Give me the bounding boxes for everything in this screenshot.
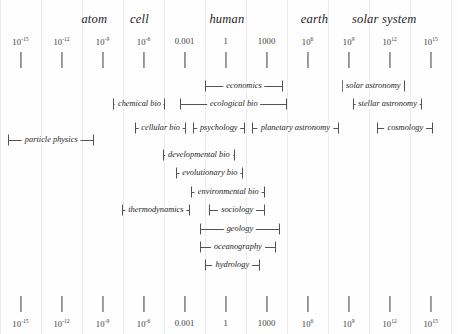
- range-cap-right: [264, 205, 265, 216]
- range-label: cosmology: [384, 124, 426, 132]
- tick-label-10^-15: 10-15: [12, 36, 28, 47]
- gridline: [328, 0, 329, 334]
- axis-tick: [61, 52, 62, 68]
- range-cap-left: [135, 123, 136, 134]
- tick-label-10^6: 106: [302, 36, 314, 47]
- tick-label-10^-6: 10-6: [137, 318, 150, 329]
- gridline: [123, 0, 124, 334]
- range-bar-environmental-bio: environmental bio: [191, 187, 265, 198]
- gridline: [246, 0, 247, 334]
- range-cap-right: [338, 123, 339, 134]
- range-bar-ecological-bio: ecological bio: [180, 99, 287, 110]
- range-cap-right: [432, 123, 433, 134]
- axis-tick: [266, 52, 267, 68]
- range-cap-left: [176, 168, 177, 179]
- tick-label-10^9: 109: [343, 318, 355, 329]
- range-cap-right: [264, 187, 265, 198]
- range-label: hydrology: [213, 261, 253, 269]
- tick-label-10^6: 106: [302, 318, 314, 329]
- gridline: [41, 0, 42, 334]
- range-cap-left: [252, 123, 253, 134]
- tick-label-10^12: 1012: [382, 318, 396, 329]
- axis-tick: [61, 296, 62, 312]
- range-cap-right: [421, 99, 422, 110]
- gridline: [451, 0, 452, 334]
- tick-label-1: 1: [223, 318, 227, 328]
- range-bar-cosmology: cosmology: [377, 123, 433, 134]
- axis-tick: [143, 52, 144, 68]
- scale-marker-solar-system: solar system: [352, 12, 417, 27]
- tick-label-10^-12: 10-12: [53, 318, 69, 329]
- range-cap-left: [163, 150, 164, 161]
- range-cap-left: [122, 205, 123, 216]
- tick-label-1000: 1000: [258, 318, 276, 328]
- axis-tick: [307, 296, 308, 312]
- range-cap-right: [282, 81, 283, 92]
- axis-tick: [102, 296, 103, 312]
- range-cap-left: [353, 99, 354, 110]
- axis-tick: [389, 52, 390, 68]
- axis-tick: [225, 296, 226, 312]
- gridline: [410, 0, 411, 334]
- range-cap-right: [279, 224, 280, 235]
- range-cap-right: [185, 123, 186, 134]
- tick-label-10^12: 1012: [382, 36, 396, 47]
- scale-marker-human: human: [209, 12, 244, 27]
- range-cap-right: [275, 242, 276, 253]
- tick-label-1: 1: [223, 36, 227, 46]
- range-cap-right: [259, 260, 260, 271]
- scale-marker-cell: cell: [130, 12, 149, 27]
- tick-label-10^15: 1015: [423, 318, 437, 329]
- axis-tick: [348, 52, 349, 68]
- range-label: oceanography: [211, 243, 265, 251]
- range-cap-right: [189, 205, 190, 216]
- range-label: developmental bio: [165, 151, 233, 159]
- range-bar-stellar-astronomy: stellar astronomy: [353, 99, 423, 110]
- tick-label-0.001: 0.001: [175, 36, 195, 46]
- tick-label-10^-9: 10-9: [96, 36, 109, 47]
- range-bar-evolutionary-bio: evolutionary bio: [176, 168, 243, 179]
- range-cap-left: [200, 242, 201, 253]
- range-cap-right: [164, 99, 165, 110]
- range-cap-left: [8, 135, 9, 146]
- axis-tick: [102, 52, 103, 68]
- range-label: economics: [223, 82, 264, 90]
- range-label: stellar astronomy: [355, 100, 420, 108]
- gridline: [287, 0, 288, 334]
- tick-label-1000: 1000: [258, 36, 276, 46]
- range-bar-chemical-bio: chemical bio: [113, 99, 165, 110]
- axis-tick: [348, 296, 349, 312]
- range-label: environmental bio: [195, 188, 262, 196]
- axis-tick: [430, 296, 431, 312]
- axis-tick: [143, 296, 144, 312]
- axis-tick: [266, 296, 267, 312]
- scale-marker-atom: atom: [81, 12, 107, 27]
- range-bar-economics: economics: [205, 81, 283, 92]
- range-cap-left: [193, 123, 194, 134]
- tick-label-10^-15: 10-15: [12, 318, 28, 329]
- range-label: psychology: [197, 124, 241, 132]
- tick-label-10^-12: 10-12: [53, 36, 69, 47]
- range-cap-right: [242, 168, 243, 179]
- axis-tick: [20, 296, 21, 312]
- range-cap-left: [205, 260, 206, 271]
- tick-label-10^-6: 10-6: [137, 36, 150, 47]
- tick-label-10^15: 1015: [423, 36, 437, 47]
- range-label: thermodynamics: [125, 206, 186, 214]
- range-bar-cellular-bio: cellular bio: [135, 123, 186, 134]
- range-label: particle physics: [22, 136, 81, 144]
- range-cap-left: [180, 99, 181, 110]
- range-bar-developmental-bio: developmental bio: [163, 150, 235, 161]
- range-bar-thermodynamics: thermodynamics: [122, 205, 190, 216]
- range-cap-left: [191, 187, 192, 198]
- tick-label-10^-9: 10-9: [96, 318, 109, 329]
- tick-label-10^9: 109: [343, 36, 355, 47]
- range-label: sociology: [218, 206, 256, 214]
- range-cap-left: [200, 224, 201, 235]
- range-cap-right: [93, 135, 94, 146]
- gridline: [164, 0, 165, 334]
- axis-tick: [389, 296, 390, 312]
- axis-tick: [20, 52, 21, 68]
- range-cap-left: [209, 205, 210, 216]
- range-cap-left: [377, 123, 378, 134]
